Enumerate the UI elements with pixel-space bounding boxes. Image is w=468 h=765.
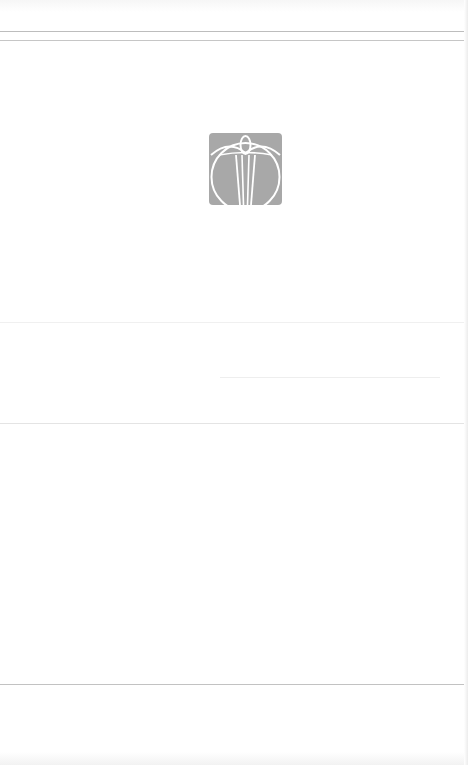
page-edge-shadow [464, 0, 468, 765]
faint-rule-3 [0, 423, 468, 424]
document-page [0, 0, 468, 765]
faint-rule-1 [0, 322, 468, 323]
top-rule-2 [0, 40, 468, 41]
top-rule-1 [0, 31, 468, 32]
bottom-rule [0, 684, 468, 685]
emblem-logo-icon [209, 133, 282, 205]
faint-rule-2 [220, 377, 440, 378]
